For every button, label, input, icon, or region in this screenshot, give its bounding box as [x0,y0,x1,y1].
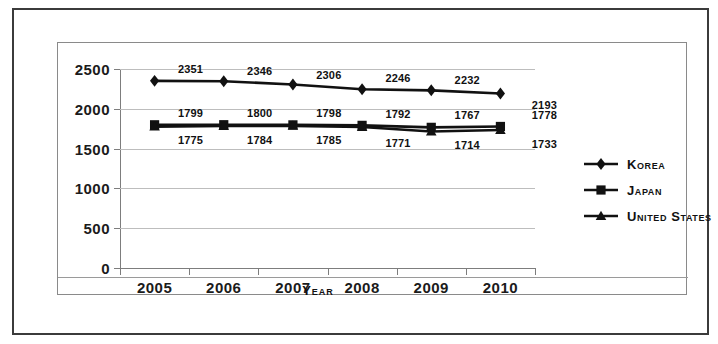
y-axis-tick-label: 0 [101,260,110,277]
x-axis-tick [328,268,329,275]
data-label: 1784 [247,134,272,146]
diamond-marker-icon [583,157,619,171]
figure-caption [14,337,704,344]
diamond-marker-icon [357,83,366,95]
data-label: 1775 [178,134,203,146]
data-label: 1799 [178,107,203,119]
triangle-marker-icon [583,209,619,223]
legend-item-united-states[interactable]: United States [583,203,712,229]
x-axis-tick [397,268,398,275]
x-axis-tick [466,268,467,275]
chart-frame: 05001000150020002500 2005200620072008200… [57,42,687,295]
chart-legend: KoreaJapanUnited States [583,151,712,229]
diamond-marker-icon [596,158,605,170]
y-axis-tick-label: 1000 [75,180,110,197]
legend-item-japan[interactable]: Japan [583,177,712,203]
y-axis-tick-label: 2000 [75,100,110,117]
square-marker-icon [583,183,619,197]
axis-title-divider [58,277,688,278]
data-label: 1771 [385,137,410,149]
y-axis-tick-label: 1500 [75,140,110,157]
data-label: 1792 [385,108,410,120]
x-axis-title: Year [58,283,578,298]
legend-item-korea[interactable]: Korea [583,151,712,177]
x-axis-tick [120,268,121,275]
data-label: 1785 [316,134,341,146]
diamond-marker-icon [427,84,436,96]
legend-label: Japan [627,183,662,198]
data-label: 2346 [247,65,272,77]
x-axis-tick [189,268,190,275]
y-axis-tick-label: 2500 [75,61,110,78]
data-label: 1714 [455,139,480,151]
series-line [155,81,501,94]
data-label: 1798 [316,107,341,119]
diamond-marker-icon [219,75,228,87]
data-label: 1800 [247,107,272,119]
diamond-marker-icon [288,78,297,90]
data-label: 2351 [178,63,203,75]
series-layer [120,69,535,268]
data-label: 1733 [532,138,557,150]
diamond-marker-icon [496,87,505,99]
figure-outer-frame: 05001000150020002500 2005200620072008200… [12,8,709,335]
diamond-marker-icon [150,75,159,87]
data-label: 2306 [316,69,341,81]
plot-area: 05001000150020002500 2005200620072008200… [120,69,535,268]
data-label: 1778 [532,109,557,121]
data-label: 2232 [455,74,480,86]
data-label: 2246 [385,72,410,84]
x-axis-tick [258,268,259,275]
x-axis-tick [535,268,536,275]
y-axis-tick-label: 500 [83,220,110,237]
legend-label: United States [627,209,712,224]
data-label: 1767 [455,109,480,121]
square-marker-icon [596,185,605,194]
legend-label: Korea [627,157,665,172]
